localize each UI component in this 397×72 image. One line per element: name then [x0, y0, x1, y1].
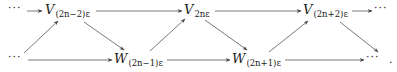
- trailing-period: .: [389, 54, 394, 65]
- node-W-2n-plus-1: W(2n+1)ε: [232, 52, 281, 65]
- arrow-W1-to-V2: [150, 19, 185, 51]
- arrow-V3-to-dots-diag: [340, 22, 378, 52]
- node-V-2n-plus-2: V(2n+2)ε: [303, 3, 348, 16]
- arrow-V1-to-W1: [84, 22, 124, 50]
- arrow-W2-to-V3: [269, 21, 308, 52]
- ellipsis-top-right: ···: [374, 3, 388, 14]
- node-V-2n-minus-2: V(2n−2)ε: [45, 3, 90, 16]
- ellipsis-bottom-right: ···: [366, 52, 380, 63]
- node-W-2n-minus-1: W(2n−1)ε: [114, 52, 163, 65]
- ellipsis-bottom-left: ···: [8, 52, 22, 63]
- node-V-2n: V2nε: [184, 3, 210, 16]
- arrow-V2-to-W2: [205, 20, 247, 50]
- ellipsis-top-left: ···: [8, 3, 22, 14]
- arrow-dots-to-V1-diag: [24, 21, 58, 53]
